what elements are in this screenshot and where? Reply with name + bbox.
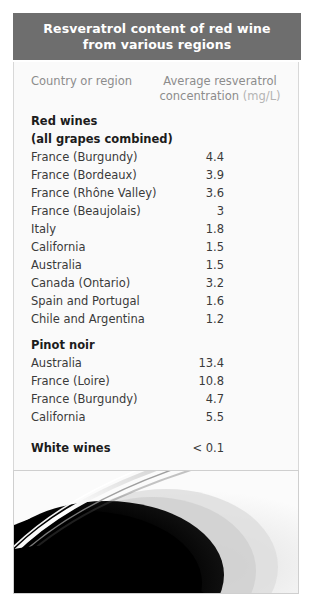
column-header-concentration-line2: concentration (159, 89, 239, 103)
row-label: France (Burgundy) (31, 148, 138, 166)
column-header-concentration-line1: Average resveratrol (163, 74, 276, 88)
row-label: Australia (31, 256, 82, 274)
table-card: Country or region Average resveratrol co… (13, 62, 299, 470)
table-row: Chile and Argentina1.2 (14, 310, 299, 328)
row-value: 1.5 (124, 256, 224, 274)
row-value: 4.7 (124, 390, 224, 408)
column-header-country: Country or region (31, 74, 132, 89)
table-row: California1.5 (14, 238, 299, 256)
wine-glass-photo (13, 470, 299, 594)
row-value: 1.6 (124, 292, 224, 310)
table-row: France (Burgundy)4.7 (14, 390, 299, 408)
row-label: California (31, 238, 86, 256)
row-value: 3.9 (124, 166, 224, 184)
column-header-concentration: Average resveratrol concentration (mg/L) (154, 74, 286, 104)
table-row: Pinot noir (14, 336, 299, 354)
row-value: 1.2 (124, 310, 224, 328)
column-header-unit: (mg/L) (243, 89, 281, 103)
wine-glass-illustration (14, 471, 298, 593)
table-row: France (Rhône Valley)3.6 (14, 184, 299, 202)
table-row: White wines< 0.1 (14, 437, 299, 459)
row-value: 3.6 (124, 184, 224, 202)
table-row: Italy1.8 (14, 220, 299, 238)
table-row: France (Loire)10.8 (14, 372, 299, 390)
table-row: California5.5 (14, 408, 299, 426)
row-label: Canada (Ontario) (31, 274, 130, 292)
table-row: France (Bordeaux)3.9 (14, 166, 299, 184)
row-label: California (31, 408, 86, 426)
table-row: Australia1.5 (14, 256, 299, 274)
row-label: Australia (31, 354, 82, 372)
figure-title: Resveratrol content of red wine from var… (33, 21, 280, 53)
table-row: Australia13.4 (14, 354, 299, 372)
table-row: Canada (Ontario)3.2 (14, 274, 299, 292)
row-label: France (Burgundy) (31, 390, 138, 408)
row-value: 4.4 (124, 148, 224, 166)
row-value: < 0.1 (124, 437, 224, 459)
table-row: (all grapes combined) (14, 130, 299, 148)
row-value: 10.8 (124, 372, 224, 390)
row-label: France (Bordeaux) (31, 166, 137, 184)
figure-title-bar: Resveratrol content of red wine from var… (13, 13, 301, 60)
row-label: (all grapes combined) (31, 130, 173, 148)
row-value: 3.2 (124, 274, 224, 292)
row-value: 1.5 (124, 238, 224, 256)
table-body: Red wines(all grapes combined)France (Bu… (14, 112, 299, 470)
row-label: Red wines (31, 112, 97, 130)
figure-title-line1: Resveratrol content of red wine (43, 21, 270, 36)
table-row: Red wines (14, 112, 299, 130)
row-label: France (Loire) (31, 372, 110, 390)
figure-title-line2: from various regions (83, 37, 232, 52)
table-row: France (Beaujolais)3 (14, 202, 299, 220)
row-label: Italy (31, 220, 56, 238)
table-row: France (Burgundy)4.4 (14, 148, 299, 166)
row-label: Pinot noir (31, 336, 95, 354)
resveratrol-table-figure: Resveratrol content of red wine from var… (0, 0, 316, 605)
row-label: White wines (31, 437, 111, 459)
row-value: 1.8 (124, 220, 224, 238)
row-value: 13.4 (124, 354, 224, 372)
row-value: 5.5 (124, 408, 224, 426)
table-row: Spain and Portugal1.6 (14, 292, 299, 310)
row-value: 3 (124, 202, 224, 220)
